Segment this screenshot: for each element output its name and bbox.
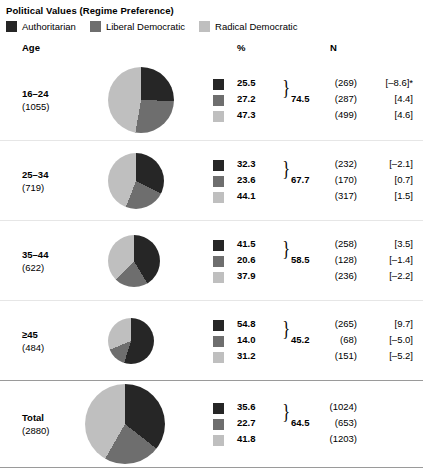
row-group-count: (1055) — [22, 100, 49, 113]
series-row: 25.5(269)[–8.6]* — [213, 76, 413, 92]
pie-chart — [85, 384, 165, 464]
series-swatch-icon — [213, 176, 224, 187]
series-n-value: (170) — [317, 174, 357, 185]
legend-item-label: Radical Democratic — [215, 21, 297, 32]
row-series: 32.3(232)[–2.1]23.6(170)[0.7]44.1(317)[1… — [213, 157, 413, 205]
series-swatch-icon — [213, 336, 224, 347]
series-percent-value: 44.1 — [237, 190, 256, 201]
series-n-value: (1203) — [317, 433, 357, 444]
series-percent-value: 41.8 — [237, 433, 256, 444]
series-swatch-icon — [213, 192, 224, 203]
row-series: 35.6(1024)22.7(653)41.8(1203)}64.5 — [213, 400, 413, 448]
series-residual-value: [3.5] — [365, 238, 413, 249]
series-swatch-icon — [213, 320, 224, 331]
series-percent-value: 20.6 — [237, 254, 256, 265]
democratic-sum-value: 64.5 — [291, 417, 310, 428]
series-row: 32.3(232)[–2.1] — [213, 157, 413, 173]
legend: Authoritarian Liberal Democratic Radical… — [0, 16, 423, 32]
series-percent-value: 35.6 — [237, 401, 256, 412]
series-swatch-icon — [213, 256, 224, 267]
pie-chart — [108, 153, 164, 209]
row-series: 54.8(265)[9.7]14.0(68)[–5.0]31.2(151)[–5… — [213, 317, 413, 365]
series-row: 47.3(499)[4.6] — [213, 108, 413, 124]
series-percent-value: 47.3 — [237, 109, 256, 120]
row-group-count: (2880) — [22, 424, 49, 437]
legend-item-liberal-democratic: Liberal Democratic — [90, 21, 185, 32]
table-row: 16–24(1055)25.5(269)[–8.6]*27.2(287)[4.4… — [0, 60, 423, 140]
series-percent-value: 32.3 — [237, 158, 256, 169]
legend-item-authoritarian: Authoritarian — [6, 21, 76, 32]
series-residual-value: [–8.6]* — [365, 77, 413, 88]
pie-chart — [108, 235, 160, 287]
series-swatch-icon — [213, 240, 224, 251]
series-percent-value: 54.8 — [237, 318, 256, 329]
series-residual-value: [–5.0] — [365, 334, 413, 345]
data-rows: 16–24(1055)25.5(269)[–8.6]*27.2(287)[4.4… — [0, 60, 423, 468]
series-n-value: (68) — [317, 334, 357, 345]
row-group-count: (719) — [22, 181, 48, 194]
series-residual-value: [9.7] — [365, 318, 413, 329]
pie-chart — [108, 67, 174, 133]
legend-item-radical-democratic: Radical Democratic — [199, 21, 297, 32]
series-residual-value: [–2.2] — [365, 270, 413, 281]
series-swatch-icon — [213, 352, 224, 363]
series-row: 22.7(653) — [213, 416, 413, 432]
row-group-name: 16–24 — [22, 87, 49, 100]
row-group-label: 35–44(622) — [22, 248, 48, 274]
row-group-label: Total(2880) — [22, 411, 49, 437]
series-n-value: (1024) — [317, 401, 357, 412]
column-header-n: N — [330, 42, 337, 53]
series-swatch-icon — [213, 272, 224, 283]
pie-chart-wrapper — [108, 235, 160, 287]
chart-root: Political Values (Regime Preference) Aut… — [0, 0, 423, 468]
series-n-value: (265) — [317, 318, 357, 329]
legend-swatch-icon — [6, 21, 17, 32]
pie-chart-wrapper — [108, 153, 164, 209]
series-swatch-icon — [213, 435, 224, 446]
row-group-name: 25–34 — [22, 168, 48, 181]
series-n-value: (236) — [317, 270, 357, 281]
pie-chart — [108, 318, 154, 364]
legend-swatch-icon — [90, 21, 101, 32]
series-row: 41.8(1203) — [213, 432, 413, 448]
series-n-value: (317) — [317, 190, 357, 201]
series-percent-value: 41.5 — [237, 238, 256, 249]
series-n-value: (653) — [317, 417, 357, 428]
series-residual-value: [–1.4] — [365, 254, 413, 265]
pie-chart-wrapper — [85, 384, 165, 464]
series-swatch-icon — [213, 403, 224, 414]
series-row: 54.8(265)[9.7] — [213, 317, 413, 333]
series-row: 35.6(1024) — [213, 400, 413, 416]
series-swatch-icon — [213, 419, 224, 430]
series-swatch-icon — [213, 95, 224, 106]
row-group-label: ≥45(484) — [22, 328, 44, 354]
series-swatch-icon — [213, 160, 224, 171]
series-n-value: (128) — [317, 254, 357, 265]
series-residual-value: [1.5] — [365, 190, 413, 201]
legend-item-label: Authoritarian — [22, 21, 76, 32]
series-percent-value: 25.5 — [237, 77, 256, 88]
series-n-value: (232) — [317, 158, 357, 169]
series-swatch-icon — [213, 79, 224, 90]
series-percent-value: 23.6 — [237, 174, 256, 185]
series-n-value: (269) — [317, 77, 357, 88]
series-percent-value: 27.2 — [237, 93, 256, 104]
column-header-percent: % — [237, 42, 245, 53]
series-residual-value: [4.6] — [365, 109, 413, 120]
democratic-sum-value: 58.5 — [291, 254, 310, 265]
series-row: 31.2(151)[–5.2] — [213, 349, 413, 365]
series-percent-value: 37.9 — [237, 270, 256, 281]
row-group-name: ≥45 — [22, 328, 44, 341]
series-row: 37.9(236)[–2.2] — [213, 269, 413, 285]
row-series: 25.5(269)[–8.6]*27.2(287)[4.4]47.3(499)[… — [213, 76, 413, 124]
row-group-count: (622) — [22, 261, 48, 274]
row-group-name: 35–44 — [22, 248, 48, 261]
legend-item-label: Liberal Democratic — [106, 21, 185, 32]
series-percent-value: 31.2 — [237, 350, 256, 361]
table-row: 35–44(622)41.5(258)[3.5]20.6(128)[–1.4]3… — [0, 220, 423, 300]
column-header-age: Age — [22, 42, 40, 53]
series-row: 23.6(170)[0.7] — [213, 173, 413, 189]
series-residual-value: [–2.1] — [365, 158, 413, 169]
series-row: 20.6(128)[–1.4] — [213, 253, 413, 269]
series-percent-value: 22.7 — [237, 417, 256, 428]
